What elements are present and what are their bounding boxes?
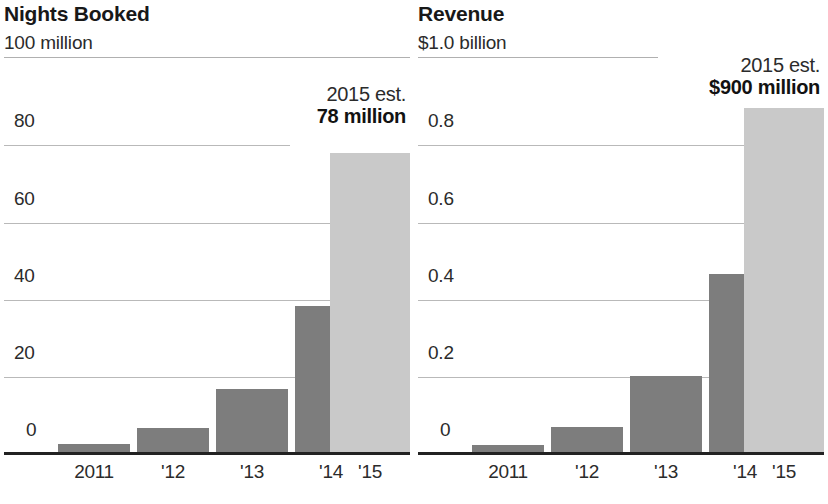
- gridline-1-0: [418, 57, 658, 58]
- xtick-2012: '12: [545, 461, 629, 483]
- xtick-2012: '12: [131, 461, 215, 483]
- callout-line-2: 78 million: [317, 106, 406, 128]
- ytick-0: 0: [440, 419, 450, 441]
- gridline-100: [4, 57, 410, 58]
- ytick-20: 20: [14, 342, 35, 364]
- ytick-0-2: 0.2: [428, 342, 454, 364]
- xtick-2013: '13: [624, 461, 708, 483]
- bar-2013[interactable]: [630, 376, 702, 452]
- ytick-60: 60: [14, 188, 35, 210]
- xtick-2015: '15: [330, 461, 410, 483]
- bar-2013[interactable]: [216, 389, 288, 452]
- callout-line-2: $900 million: [709, 77, 820, 99]
- bar-2012[interactable]: [137, 428, 209, 452]
- callout-line-1: 2015 est.: [709, 55, 820, 77]
- x-axis-line: [4, 452, 410, 455]
- ytick-0: 0: [26, 419, 36, 441]
- ytick-80: 80: [14, 110, 35, 132]
- chart-panel-nights-booked: Nights Booked 100 million 80 60 40 20 0 …: [0, 0, 414, 504]
- chart-pair: Nights Booked 100 million 80 60 40 20 0 …: [0, 0, 828, 504]
- xtick-2013: '13: [210, 461, 294, 483]
- callout-2015-estimate-nights: 2015 est. 78 million: [317, 84, 406, 127]
- xtick-2015: '15: [744, 461, 824, 483]
- ytick-0-4: 0.4: [428, 265, 454, 287]
- ytick-0-6: 0.6: [428, 188, 454, 210]
- bar-2015[interactable]: [744, 108, 824, 452]
- x-axis-line: [418, 452, 824, 455]
- bar-2012[interactable]: [551, 427, 623, 452]
- bar-2011[interactable]: [58, 444, 130, 452]
- chart-panel-revenue: Revenue $1.0 billion 0.8 0.6 0.4 0.2 0 2…: [414, 0, 828, 504]
- callout-2015-estimate-revenue: 2015 est. $900 million: [709, 55, 820, 98]
- ytick-40: 40: [14, 265, 35, 287]
- bar-2011[interactable]: [472, 445, 544, 452]
- bar-2015[interactable]: [330, 153, 410, 452]
- xtick-2011: 2011: [48, 461, 140, 483]
- callout-line-1: 2015 est.: [317, 84, 406, 106]
- xtick-2011: 2011: [462, 461, 554, 483]
- ytick-0-8: 0.8: [428, 110, 454, 132]
- plot-area-nights-booked: 80 60 40 20 0 2011 '12 '13 '14 '15: [0, 0, 414, 504]
- gridline-80: [4, 145, 290, 146]
